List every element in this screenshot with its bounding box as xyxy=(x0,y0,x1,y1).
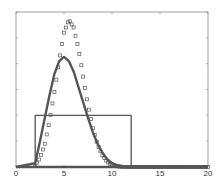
x-tick-label: 10 xyxy=(108,169,117,178)
x-tick-label: 20 xyxy=(204,169,213,178)
x-tick-label: 0 xyxy=(14,169,19,178)
x-tick-label: 5 xyxy=(62,169,67,178)
plot-frame xyxy=(16,12,208,167)
x-tick-label: 15 xyxy=(156,169,165,178)
chart: 05101520 xyxy=(0,0,220,185)
